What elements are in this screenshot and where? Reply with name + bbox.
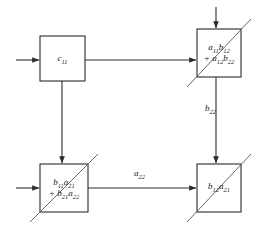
diagram-vector-layer	[0, 0, 264, 237]
diagram-canvas: c11 a11b12 + a12b22 b11a21 + b21a22 b12a…	[0, 0, 264, 237]
cell-top-left-box	[40, 36, 85, 81]
